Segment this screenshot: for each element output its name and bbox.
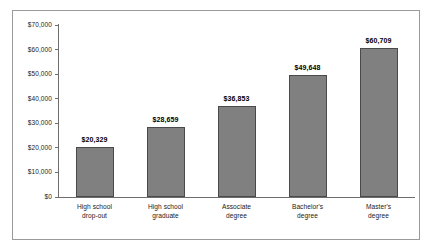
x-axis-line (58, 197, 415, 198)
x-axis-category-label-line: graduate (126, 212, 206, 221)
y-axis-tick: $40,000 (0, 94, 59, 104)
x-axis-category-label-line: Master's (339, 203, 419, 212)
x-axis-category-label: High schooldrop-out (55, 203, 135, 220)
bar-value-label: $20,329 (81, 136, 107, 143)
x-axis-category-label: High schoolgraduate (126, 203, 206, 220)
y-axis-tick: $20,000 (0, 143, 59, 153)
y-axis-tick: $70,000 (0, 20, 59, 30)
x-axis-category-label-line: Associate (197, 203, 277, 212)
x-axis-category-label-line: degree (197, 212, 277, 221)
y-axis-tick-label: $40,000 (28, 94, 52, 104)
y-axis-tick-group: $0$10,000$20,000$30,000$40,000$50,000$60… (0, 0, 59, 251)
y-axis-tick-label: $10,000 (28, 167, 52, 177)
bar (218, 106, 256, 197)
bar-chart-figure: $0$10,000$20,000$30,000$40,000$50,000$60… (0, 0, 431, 251)
x-axis-category-label-line: Bachelor's (268, 203, 348, 212)
y-axis-tick-label: $30,000 (28, 118, 52, 128)
x-axis-category-label: Bachelor'sdegree (268, 203, 348, 220)
y-axis-tick: $0 (0, 192, 59, 202)
y-axis-tick-label: $0 (45, 192, 52, 202)
bar (76, 147, 114, 197)
y-axis-tick-label: $70,000 (28, 20, 52, 30)
y-axis-tick-label: $20,000 (28, 143, 52, 153)
bar-value-label: $28,659 (152, 116, 178, 123)
y-axis-tick: $60,000 (0, 45, 59, 55)
x-axis-category-label-line: High school (126, 203, 206, 212)
y-axis-tick: $30,000 (0, 118, 59, 128)
x-axis-category-label: Master'sdegree (339, 203, 419, 220)
y-axis-tick-label: $50,000 (28, 69, 52, 79)
bar-value-label: $36,853 (223, 95, 249, 102)
x-axis-category-label: Associatedegree (197, 203, 277, 220)
bar (360, 48, 398, 197)
bar-value-label: $49,648 (294, 64, 320, 71)
x-axis-category-label-line: drop-out (55, 212, 135, 221)
x-axis-category-label-line: degree (339, 212, 419, 221)
y-axis-tick-label: $60,000 (28, 45, 52, 55)
bar (147, 127, 185, 197)
y-axis-tick: $50,000 (0, 69, 59, 79)
x-axis-category-label-line: degree (268, 212, 348, 221)
bar (289, 75, 327, 197)
bar-value-label: $60,709 (365, 37, 391, 44)
x-axis-category-label-line: High school (55, 203, 135, 212)
y-axis-tick: $10,000 (0, 167, 59, 177)
